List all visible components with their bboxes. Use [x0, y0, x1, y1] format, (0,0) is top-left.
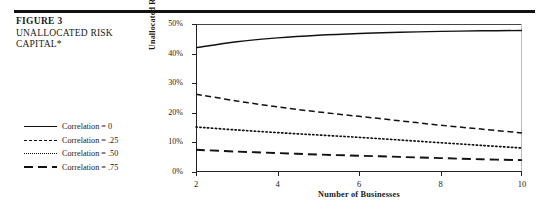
- x-tick-mark: [441, 171, 442, 176]
- x-axis-label: Number of Businesses: [196, 190, 522, 199]
- figure-title: UNALLOCATED RISK CAPITAL*: [16, 28, 146, 51]
- legend-line-swatch-icon: [24, 150, 57, 157]
- chart-legend: Correlation = 0Correlation = .25Correlat…: [24, 120, 149, 174]
- figure-number: FIGURE 3: [16, 16, 146, 28]
- legend-item-label: Correlation = 0: [62, 122, 112, 131]
- x-tick-label: 6: [349, 179, 369, 189]
- legend-line-swatch-icon: [24, 164, 57, 171]
- legend-line-swatch-icon: [24, 123, 57, 130]
- y-tick-mark: [192, 54, 197, 55]
- y-tick-label: 40%: [159, 50, 183, 58]
- y-tick-mark: [192, 142, 197, 143]
- figure-caption: FIGURE 3 UNALLOCATED RISK CAPITAL*: [16, 16, 146, 51]
- legend-item-label: Correlation = .75: [62, 163, 118, 172]
- y-tick-label: 30%: [159, 79, 183, 87]
- series-lines: [196, 24, 522, 172]
- series-line: [196, 31, 522, 48]
- y-axis-ticks: 0%10%20%30%40%50%: [159, 14, 183, 204]
- y-tick-mark: [192, 83, 197, 84]
- y-tick-label: 0%: [159, 168, 183, 176]
- figure-page: FIGURE 3 UNALLOCATED RISK CAPITAL* Corre…: [0, 0, 549, 207]
- y-tick-label: 50%: [159, 20, 183, 28]
- series-line: [196, 94, 522, 133]
- series-line: [196, 127, 522, 148]
- x-tick-label: 4: [268, 179, 288, 189]
- chart-container: Unallocated Risk Capital 0%10%20%30%40%5…: [140, 14, 540, 204]
- series-line: [196, 150, 522, 160]
- x-tick-mark: [278, 171, 279, 176]
- y-tick-mark: [192, 24, 197, 25]
- top-divider-rule: [14, 10, 535, 13]
- y-tick-mark: [192, 113, 197, 114]
- legend-item-label: Correlation = .50: [62, 149, 118, 158]
- x-tick-mark: [521, 171, 522, 176]
- legend-item-label: Correlation = .25: [62, 136, 118, 145]
- x-tick-mark: [196, 171, 197, 176]
- legend-item[interactable]: Correlation = .25: [24, 134, 149, 148]
- legend-item[interactable]: Correlation = 0: [24, 120, 149, 134]
- x-tick-label: 10: [512, 179, 532, 189]
- y-axis-label: Unallocated Risk Capital: [148, 0, 157, 50]
- legend-item[interactable]: Correlation = .50: [24, 147, 149, 161]
- legend-line-swatch-icon: [24, 137, 57, 144]
- x-tick-label: 2: [186, 179, 206, 189]
- x-tick-mark: [359, 171, 360, 176]
- y-tick-label: 10%: [159, 138, 183, 146]
- x-tick-label: 8: [431, 179, 451, 189]
- plot-area: 246810: [196, 24, 522, 172]
- legend-item[interactable]: Correlation = .75: [24, 161, 149, 175]
- y-tick-label: 20%: [159, 109, 183, 117]
